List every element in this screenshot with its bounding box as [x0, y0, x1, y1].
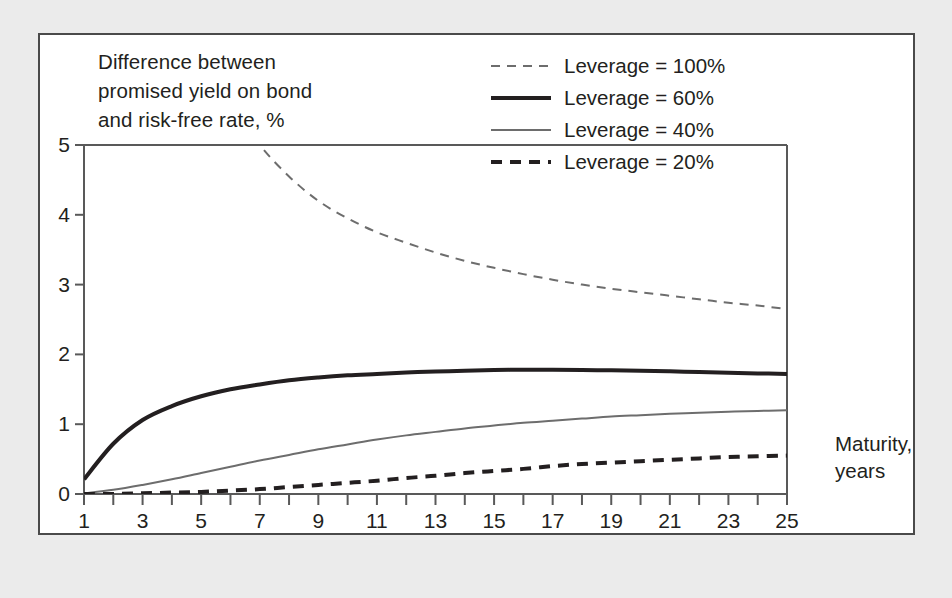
x-tick-label: 1	[78, 509, 90, 533]
figure-panel: Difference between promised yield on bon…	[38, 33, 915, 535]
series-line	[84, 370, 787, 480]
x-tick-label: 9	[312, 509, 324, 533]
x-tick-label: 23	[717, 509, 740, 533]
x-tick-label: 15	[482, 509, 505, 533]
y-tick-label: 5	[44, 133, 70, 157]
screenshot-root: Difference between promised yield on bon…	[0, 0, 952, 598]
x-tick-label: 7	[254, 509, 266, 533]
x-tick-label: 21	[658, 509, 681, 533]
y-tick-label: 3	[44, 273, 70, 297]
x-tick-label: 5	[195, 509, 207, 533]
x-tick-label: 17	[541, 509, 564, 533]
series-line	[84, 410, 787, 493]
chart-plot-area	[40, 35, 917, 537]
data-curves	[84, 35, 787, 494]
y-tick-label: 2	[44, 342, 70, 366]
series-line	[84, 35, 787, 309]
x-tick-label: 3	[137, 509, 149, 533]
y-tick-label: 0	[44, 482, 70, 506]
x-tick-label: 11	[366, 509, 388, 533]
x-tick-label: 25	[775, 509, 798, 533]
axes	[75, 145, 787, 505]
x-tick-label: 13	[424, 509, 447, 533]
y-tick-label: 4	[44, 203, 70, 227]
x-tick-label: 19	[600, 509, 623, 533]
y-tick-label: 1	[44, 412, 70, 436]
